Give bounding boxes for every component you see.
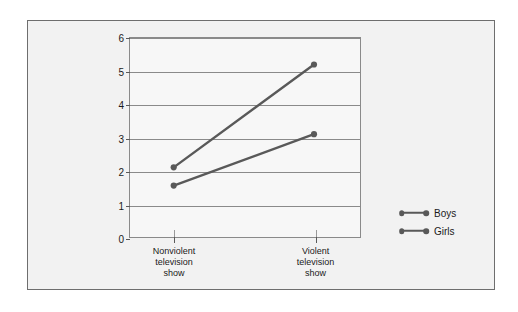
x-axis-category-label-line: television <box>153 257 196 268</box>
y-axis-tick-label: 5 <box>118 66 124 77</box>
legend-item-boys: Boys <box>399 207 456 219</box>
series-boys <box>171 61 317 170</box>
legend-label: Girls <box>434 226 455 237</box>
gridline <box>130 38 360 39</box>
series-line <box>174 65 314 168</box>
y-axis-tick-mark <box>126 72 130 73</box>
y-axis-tick-mark <box>126 206 130 207</box>
data-point <box>171 164 177 170</box>
y-axis-tick-mark <box>126 105 130 106</box>
figure-root: Average duration of aggressive responses… <box>0 0 518 312</box>
x-axis-category-label-line: show <box>153 268 196 279</box>
y-axis-title-container: Average duration of aggressive responses <box>74 79 114 259</box>
y-axis-tick-mark <box>126 38 130 39</box>
y-axis-tick-label: 3 <box>118 133 124 144</box>
series-plot <box>130 38 360 237</box>
data-point <box>311 131 317 137</box>
x-axis-category-label-line: Nonviolent <box>153 246 196 257</box>
x-axis-tick-mark-inner <box>174 230 175 237</box>
y-axis-tick-label: 4 <box>118 100 124 111</box>
legend-marker-dot <box>423 210 429 216</box>
data-point <box>311 61 317 67</box>
x-axis-category-label-line: television <box>297 257 335 268</box>
legend-item-girls: Girls <box>399 225 456 237</box>
x-axis-tick-mark <box>316 237 317 243</box>
gridline <box>130 105 360 106</box>
y-axis-tick-label: 6 <box>118 33 124 44</box>
legend-marker-dot <box>423 228 429 234</box>
chart-panel: Average duration of aggressive responses… <box>27 20 495 290</box>
x-axis-category-label-line: Violent <box>297 246 335 257</box>
x-axis-tick-mark <box>174 237 175 243</box>
series-girls <box>171 131 317 189</box>
gridline <box>130 172 360 173</box>
series-line <box>174 134 314 185</box>
y-axis-tick-mark <box>126 239 130 240</box>
legend-marker-dot <box>399 228 405 234</box>
gridline <box>130 72 360 73</box>
y-axis-tick-mark <box>126 139 130 140</box>
legend-marker-dot <box>399 210 405 216</box>
y-axis-tick-label: 1 <box>118 200 124 211</box>
y-axis-tick-label: 0 <box>118 234 124 245</box>
x-axis-category-label: Violenttelevisionshow <box>297 246 335 279</box>
gridline <box>130 139 360 140</box>
x-axis-category-label-line: show <box>297 268 335 279</box>
legend-marker <box>399 226 429 236</box>
gridline <box>130 206 360 207</box>
chart-legend: BoysGirls <box>399 207 456 237</box>
y-axis-tick-mark <box>126 172 130 173</box>
plot-area: 0123456 NonviolenttelevisionshowViolentt… <box>129 37 361 238</box>
legend-marker <box>399 208 429 218</box>
data-point <box>171 183 177 189</box>
legend-label: Boys <box>434 208 456 219</box>
x-axis-category-label: Nonviolenttelevisionshow <box>153 246 196 279</box>
y-axis-tick-label: 2 <box>118 167 124 178</box>
x-axis-tick-mark-inner <box>316 230 317 237</box>
